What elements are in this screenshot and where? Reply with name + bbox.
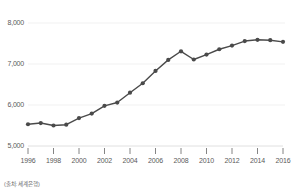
- data-point-marker: [255, 38, 259, 42]
- data-point-marker: [204, 52, 208, 56]
- y-axis-tick-label: 5,000: [2, 142, 24, 150]
- data-point-marker: [192, 57, 196, 61]
- data-point-marker: [64, 123, 68, 127]
- chart-figure: 5,0006,0007,0008,000 1996199820002002200…: [0, 0, 291, 194]
- gridlines-group: [28, 23, 285, 105]
- x-axis-tick-label: 2008: [168, 157, 194, 165]
- x-axis-tick-label: 2004: [117, 157, 143, 165]
- x-axis-tick-label: 2010: [194, 157, 220, 165]
- y-axis-tick-label: 8,000: [2, 19, 24, 27]
- data-point-marker: [90, 112, 94, 116]
- x-axis-tick-label: 2000: [66, 157, 92, 165]
- data-point-markers-group: [26, 38, 285, 128]
- x-axis-tick-label: 1996: [15, 157, 41, 165]
- x-axis-tick-label: 2016: [270, 157, 291, 165]
- data-point-marker: [153, 69, 157, 73]
- data-point-marker: [128, 91, 132, 95]
- data-point-marker: [217, 47, 221, 51]
- data-point-marker: [179, 49, 183, 53]
- source-note: (출처: 세계은행): [4, 180, 40, 188]
- x-axis-tick-label: 2006: [143, 157, 169, 165]
- x-axis-tick-label: 2014: [245, 157, 271, 165]
- y-axis-tick-label: 6,000: [2, 101, 24, 109]
- data-point-marker: [268, 38, 272, 42]
- data-point-marker: [230, 43, 234, 47]
- data-point-marker: [26, 122, 30, 126]
- data-point-marker: [243, 39, 247, 43]
- data-point-marker: [281, 40, 285, 44]
- x-axis-tick-label: 1998: [41, 157, 67, 165]
- data-point-marker: [115, 100, 119, 104]
- data-point-marker: [77, 116, 81, 120]
- data-point-marker: [39, 121, 43, 125]
- data-point-marker: [166, 58, 170, 62]
- y-axis-tick-label: 7,000: [2, 60, 24, 68]
- x-axis-tick-label: 2012: [219, 157, 245, 165]
- data-line: [28, 40, 283, 126]
- x-axis-tick-label: 2002: [92, 157, 118, 165]
- data-point-marker: [51, 123, 55, 127]
- data-point-marker: [102, 104, 106, 108]
- x-tick-marks-group: [28, 148, 283, 154]
- data-point-marker: [141, 81, 145, 85]
